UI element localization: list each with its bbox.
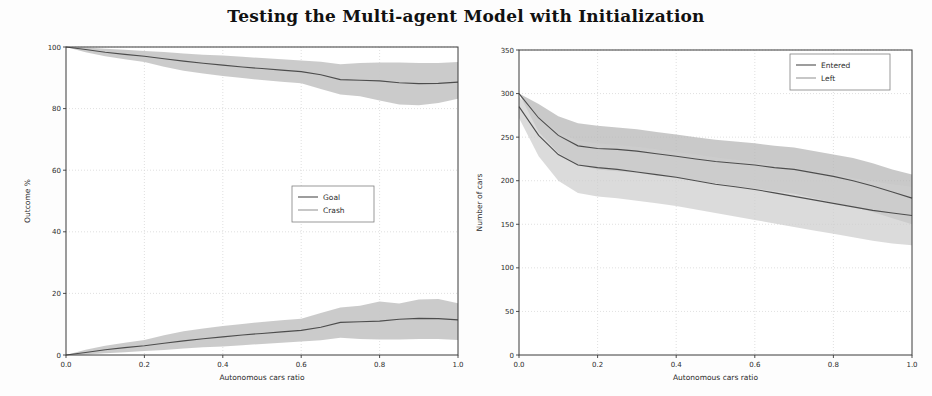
y-tick-label: 20 bbox=[52, 290, 61, 298]
x-axis-label: Autonomous cars ratio bbox=[673, 373, 758, 382]
y-tick-label: 350 bbox=[501, 47, 514, 55]
y-tick-label: 100 bbox=[501, 264, 514, 272]
legend-item-label: Goal bbox=[323, 193, 340, 202]
left-chart-panel: 0204060801000.00.20.40.60.81.0Autonomous… bbox=[0, 34, 470, 396]
y-tick-label: 250 bbox=[501, 134, 514, 142]
x-tick-label: 0.6 bbox=[749, 361, 761, 369]
x-tick-label: 0.0 bbox=[513, 361, 524, 369]
x-tick-label: 0.0 bbox=[60, 361, 71, 369]
x-tick-label: 0.2 bbox=[139, 361, 150, 369]
y-axis-label: Number of cars bbox=[475, 173, 484, 231]
x-tick-label: 0.6 bbox=[296, 361, 308, 369]
x-tick-label: 0.8 bbox=[374, 361, 385, 369]
left-plot-svg: 0204060801000.00.20.40.60.81.0Autonomous… bbox=[0, 34, 470, 396]
y-tick-label: 300 bbox=[501, 90, 514, 98]
y-axis-label: Outcome % bbox=[23, 179, 32, 223]
x-tick-label: 0.2 bbox=[592, 361, 603, 369]
figure-canvas: Testing the Multi-agent Model with Initi… bbox=[0, 0, 932, 396]
x-tick-label: 0.4 bbox=[671, 361, 683, 369]
legend[interactable]: EnteredLeft bbox=[790, 54, 890, 90]
right-chart-panel: 0501001502002503003500.00.20.40.60.81.0A… bbox=[462, 34, 932, 396]
y-tick-label: 100 bbox=[48, 44, 61, 52]
x-tick-label: 1.0 bbox=[906, 361, 917, 369]
y-tick-label: 60 bbox=[52, 167, 61, 175]
y-tick-label: 0 bbox=[510, 352, 514, 360]
legend-item-label: Crash bbox=[323, 206, 345, 215]
y-tick-label: 80 bbox=[52, 105, 61, 113]
y-tick-label: 50 bbox=[505, 308, 514, 316]
x-tick-label: 0.8 bbox=[828, 361, 839, 369]
legend-item-label: Left bbox=[821, 74, 835, 83]
figure-title: Testing the Multi-agent Model with Initi… bbox=[0, 6, 932, 26]
legend-item-label: Entered bbox=[821, 61, 851, 70]
y-tick-label: 150 bbox=[501, 221, 514, 229]
legend[interactable]: GoalCrash bbox=[292, 186, 374, 222]
y-tick-label: 200 bbox=[501, 177, 514, 185]
x-tick-label: 0.4 bbox=[217, 361, 229, 369]
x-axis-label: Autonomous cars ratio bbox=[219, 373, 304, 382]
y-tick-label: 0 bbox=[57, 352, 61, 360]
right-plot-svg: 0501001502002503003500.00.20.40.60.81.0A… bbox=[462, 34, 932, 396]
y-tick-label: 40 bbox=[52, 228, 61, 236]
